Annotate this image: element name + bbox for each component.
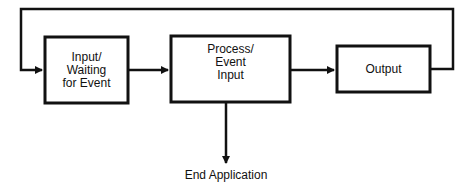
node-process-line-1: Process/	[207, 43, 254, 56]
node-input-line-2: Waiting	[67, 64, 107, 77]
node-process-line-3: Input	[217, 69, 244, 82]
node-end-label: End Application	[166, 167, 286, 183]
node-input-line-1: Input/	[71, 51, 101, 64]
node-process-line-2: Event	[215, 56, 246, 69]
node-output-line-1: Output	[365, 63, 401, 76]
node-process-label: Process/ Event Input	[171, 36, 290, 88]
node-input-line-3: for Event	[62, 77, 110, 90]
node-output-label: Output	[337, 46, 430, 92]
node-input-label: Input/ Waiting for Event	[45, 37, 128, 103]
node-end-line-1: End Application	[185, 169, 268, 182]
